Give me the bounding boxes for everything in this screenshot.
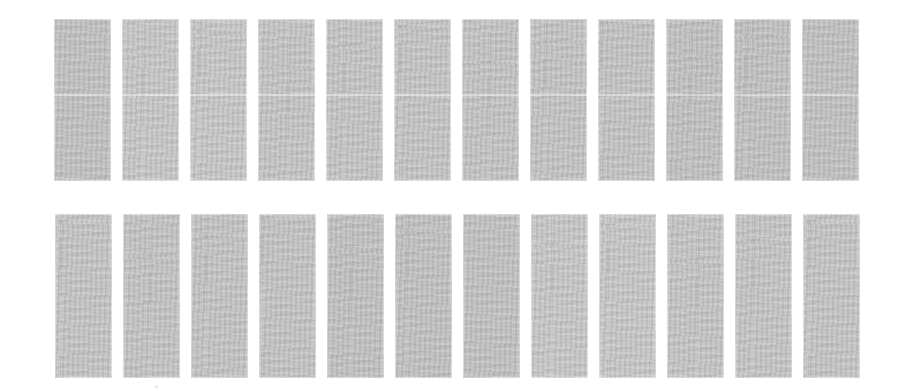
- scan-frame: [530, 19, 587, 181]
- frame-seam: [530, 94, 587, 96]
- scan-frame: [462, 19, 519, 181]
- frame-seam: [598, 94, 655, 96]
- scan-frame: [599, 214, 656, 378]
- frame-seam: [734, 94, 791, 96]
- scan-frame: [55, 214, 112, 378]
- frame-seam: [394, 94, 451, 96]
- frame-seam: [326, 94, 383, 96]
- scan-frame: [123, 214, 180, 378]
- scan-frame: [803, 214, 860, 378]
- scan-frame: [326, 19, 383, 181]
- scan-frame: [735, 214, 792, 378]
- frame-seam: [122, 94, 179, 96]
- frame-seam: [258, 94, 315, 96]
- scan-frame: [463, 214, 520, 378]
- scan-frame: [259, 214, 316, 378]
- scan-frame: [191, 214, 248, 378]
- frame-seam: [190, 94, 247, 96]
- scan-frame: [666, 19, 723, 181]
- scan-frame: [598, 19, 655, 181]
- scan-frame: [327, 214, 384, 378]
- scan-frame: [802, 19, 859, 181]
- frame-seam: [462, 94, 519, 96]
- scan-frame: [190, 19, 247, 181]
- scan-frame: [395, 214, 452, 378]
- scan-frame: [667, 214, 724, 378]
- scan-frame: [54, 19, 111, 181]
- scan-sheet: [0, 0, 911, 391]
- speck: [155, 385, 158, 388]
- scan-frame: [122, 19, 179, 181]
- frame-seam: [54, 94, 111, 96]
- scan-frame: [258, 19, 315, 181]
- scan-frame: [734, 19, 791, 181]
- scan-frame: [394, 19, 451, 181]
- frame-seam: [666, 94, 723, 96]
- frame-seam: [802, 94, 859, 96]
- scan-frame: [531, 214, 588, 378]
